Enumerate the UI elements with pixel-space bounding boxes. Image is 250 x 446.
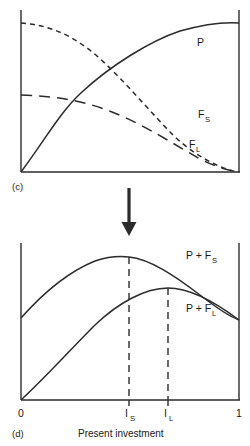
curve-label-fl-subscript: L bbox=[196, 145, 200, 154]
curve-label-fs-subscript: S bbox=[205, 115, 210, 124]
curve-label-p-plus-fs-subscript: S bbox=[212, 256, 217, 265]
curve-label-p-plus-fs-group: P + F S bbox=[186, 249, 217, 265]
curve-fs bbox=[21, 23, 239, 172]
curve-label-fl-group: F L bbox=[189, 138, 200, 154]
xtick-label-il-subscript: L bbox=[169, 414, 173, 423]
panel-tag-d: (d) bbox=[12, 428, 24, 439]
xtick-label-is: I bbox=[125, 407, 128, 419]
curve-label-fs-group: F S bbox=[198, 108, 210, 124]
curve-label-p-plus-fl: P + F bbox=[186, 302, 211, 314]
curve-label-fs: F bbox=[198, 108, 204, 120]
xtick-label-il: I bbox=[164, 407, 167, 419]
curve-p bbox=[21, 23, 239, 172]
xtick-label-1: 1 bbox=[236, 407, 242, 419]
down-arrow-icon bbox=[122, 188, 137, 236]
curve-label-p: P bbox=[197, 36, 204, 48]
curve-label-p-plus-fs: P + F bbox=[186, 249, 211, 261]
xtick-label-0: 0 bbox=[18, 407, 24, 419]
figure-svg: P F S F L (c) bbox=[0, 0, 250, 446]
xtick-label-il-group: I L bbox=[164, 407, 173, 423]
curve-label-p-plus-fl-subscript: L bbox=[212, 309, 216, 318]
panel-d: P + F S P + F L 0 I S I L 1 (d) Present … bbox=[12, 243, 242, 439]
figure-container: P F S F L (c) bbox=[0, 0, 250, 446]
panel-tag-c: (c) bbox=[12, 181, 23, 192]
xtick-label-is-group: I S bbox=[125, 407, 135, 423]
curve-label-fl: F bbox=[189, 138, 195, 150]
panel-c: P F S F L (c) bbox=[12, 10, 240, 192]
xtick-label-is-subscript: S bbox=[130, 414, 135, 423]
panel-d-x-axis-label: Present investment bbox=[78, 428, 164, 439]
